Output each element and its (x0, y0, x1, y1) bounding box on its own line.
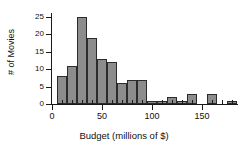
histogram-bar (87, 38, 97, 104)
y-axis-tick-label: 10 (28, 65, 44, 73)
x-axis-major-tick (152, 105, 153, 110)
plot-area (52, 17, 236, 104)
histogram-bar (97, 59, 107, 104)
x-axis-minor-tick (232, 100, 233, 105)
x-axis-major-tick (52, 105, 53, 110)
x-axis-minor-tick (162, 100, 163, 105)
histogram-bar (77, 17, 87, 104)
x-axis-tick-label: 50 (90, 111, 114, 121)
x-axis-minor-tick (172, 100, 173, 105)
x-axis-minor-tick (122, 100, 123, 105)
histogram-figure: # of Movies 0510152025 050100150 Budget … (0, 0, 248, 150)
x-axis-minor-tick (72, 100, 73, 105)
x-axis-minor-tick (192, 100, 193, 105)
x-axis-minor-tick (132, 100, 133, 105)
x-axis-minor-tick (212, 100, 213, 105)
y-axis-tick-label: 25 (28, 13, 44, 21)
y-axis-tick-label: 20 (28, 30, 44, 38)
histogram-bar (67, 66, 77, 104)
x-axis-title: Budget (millions of $) (0, 130, 248, 141)
x-axis-minor-tick (92, 100, 93, 105)
x-axis-major-tick (102, 105, 103, 110)
y-axis-tick-label: 15 (28, 48, 44, 56)
y-axis-tick-label: 0 (28, 100, 44, 108)
x-axis-tick-label: 100 (140, 111, 164, 121)
x-axis-minor-tick (182, 100, 183, 105)
histogram-bar (107, 62, 117, 104)
y-axis-tick-label: 5 (28, 83, 44, 91)
x-axis-minor-tick (222, 100, 223, 105)
x-axis-minor-tick (112, 100, 113, 105)
x-axis-major-tick (202, 105, 203, 110)
x-axis-tick-label: 0 (40, 111, 64, 121)
x-axis-minor-tick (82, 100, 83, 105)
x-axis-tick-label: 150 (190, 111, 214, 121)
x-axis-minor-tick (142, 100, 143, 105)
x-axis-minor-tick (62, 100, 63, 105)
histogram-bar (147, 101, 157, 104)
y-axis-title: # of Movies (6, 16, 16, 88)
